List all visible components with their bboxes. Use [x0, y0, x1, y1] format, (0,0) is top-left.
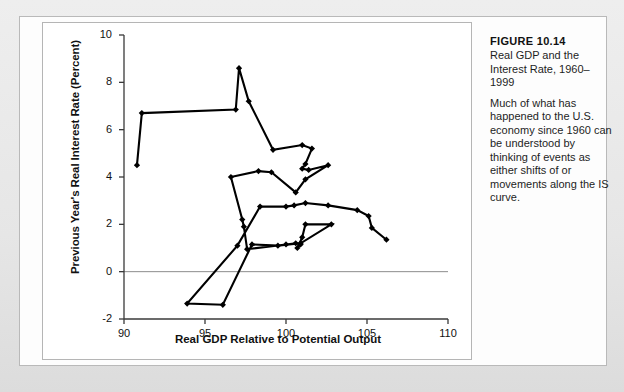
data-point-marker [302, 221, 308, 227]
figure-number-label: FIGURE 10.14 [490, 35, 612, 47]
data-point-marker [325, 202, 331, 208]
data-point-marker [255, 168, 261, 174]
y-axis-tick-label: 10 [86, 28, 112, 40]
data-point-marker [299, 234, 305, 240]
axes-group [119, 35, 448, 324]
y-axis-tick-label: 8 [86, 75, 112, 87]
data-point-marker [139, 110, 145, 116]
y-axis-tick-label: 2 [86, 217, 112, 229]
data-point-marker [228, 174, 234, 180]
figure-page: -20246810 9095100105110 Previous Year's … [0, 0, 624, 392]
y-axis-ticks [119, 35, 124, 319]
data-point-marker [299, 142, 305, 148]
y-axis-tick-label: 0 [86, 265, 112, 277]
y-axis-title: Previous Year's Real Interest Rate (Perc… [69, 7, 81, 307]
chart-panel: -20246810 9095100105110 Previous Year's … [42, 22, 472, 360]
data-point-marker [291, 202, 297, 208]
data-point-marker [283, 241, 289, 247]
data-point-marker [134, 162, 140, 168]
figure-description: Much of what has happened to the U.S. ec… [490, 97, 612, 205]
data-point-marker [283, 203, 289, 209]
figure-panel: -20246810 9095100105110 Previous Year's … [20, 17, 606, 365]
chart-area: -20246810 9095100105110 Previous Year's … [43, 23, 473, 361]
scatter-line-chart [43, 23, 473, 361]
data-point-marker [306, 167, 312, 173]
figure-caption: FIGURE 10.14 Real GDP and the Interest R… [490, 35, 612, 205]
data-point-marker [275, 243, 281, 249]
figure-subtitle: Real GDP and the Interest Rate, 1960–199… [490, 49, 612, 90]
y-axis-tick-label: -2 [86, 312, 112, 324]
y-axis-tick-label: 4 [86, 170, 112, 182]
data-point-marker [233, 106, 239, 112]
data-point-marker [302, 200, 308, 206]
data-point-marker [236, 65, 242, 71]
y-axis-tick-label: 6 [86, 123, 112, 135]
x-axis-ticks [124, 319, 448, 324]
x-axis-title: Real GDP Relative to Potential Output [83, 333, 473, 345]
data-point-marker [239, 217, 245, 223]
series-line-is-curve [137, 68, 386, 305]
data-point-marker [309, 146, 315, 152]
